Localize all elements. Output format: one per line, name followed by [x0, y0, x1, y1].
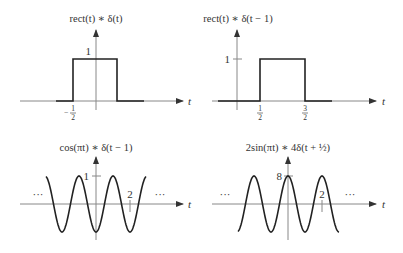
convolution-figure: rect(t) ∗ δ(t) t 1 − 1 2 rect(t) ∗ δ(t −… [0, 0, 403, 253]
t-axis-label: t [188, 198, 192, 210]
y-tick-label: 1 [86, 45, 92, 57]
right-ellipsis: ··· [345, 188, 356, 200]
y-tick-label: 1 [225, 53, 231, 65]
x-tick-label: 2 [319, 188, 325, 200]
panel-rect-conv-delta: rect(t) ∗ δ(t) t 1 − 1 2 [20, 13, 192, 122]
t-axis-label: t [188, 95, 192, 107]
t-axis-label: t [382, 198, 386, 210]
panel-title: rect(t) ∗ δ(t) [70, 13, 123, 25]
right-ellipsis: ··· [155, 188, 166, 200]
minus-sign: − [64, 108, 68, 117]
panel-sin-conv-scaled-delta: 2sin(πt) ∗ 4δ(t + ½) t 8 2 ··· ··· [212, 142, 386, 240]
frac-num: 1 [71, 104, 75, 113]
y-tick-label: 1 [84, 170, 90, 182]
x-tick-label-half: 1 2 [257, 104, 263, 122]
frac-den: 2 [303, 113, 307, 122]
panel-title: 2sin(πt) ∗ 4δ(t + ½) [246, 142, 331, 154]
panel-title: rect(t) ∗ δ(t − 1) [203, 13, 273, 25]
y-tick-label: 8 [277, 170, 283, 182]
x-tick-label-three-halves: 3 2 [302, 104, 308, 122]
panel-cos-conv-shifted-delta: cos(πt) ∗ δ(t − 1) t 1 2 ··· ··· [20, 142, 192, 240]
frac-den: 2 [71, 113, 75, 122]
frac-num: 1 [258, 104, 262, 113]
rect-pulse-curve [56, 59, 144, 101]
left-ellipsis: ··· [33, 188, 44, 200]
frac-num: 3 [303, 104, 307, 113]
frac-den: 2 [258, 113, 262, 122]
left-ellipsis: ··· [220, 188, 231, 200]
x-tick-label: 2 [127, 188, 133, 200]
panel-title: cos(πt) ∗ δ(t − 1) [60, 142, 133, 154]
panel-rect-conv-shifted-delta: rect(t) ∗ δ(t − 1) t 1 1 2 3 2 [203, 13, 386, 122]
x-tick-label-neg-half: − 1 2 [64, 104, 76, 122]
shifted-rect-pulse-curve [218, 59, 332, 101]
t-axis-label: t [382, 95, 386, 107]
